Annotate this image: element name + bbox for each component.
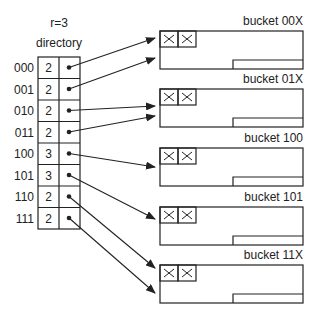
directory-row-101: 101 3 bbox=[14, 169, 71, 183]
row-index: 101 bbox=[14, 169, 34, 183]
bucket-label: bucket 00X bbox=[243, 14, 303, 28]
bucket-11X: bucket 11X bbox=[160, 248, 303, 303]
directory-row-001: 001 2 bbox=[14, 83, 71, 97]
arrow-011-to-01X bbox=[69, 116, 155, 132]
directory-row-100: 100 3 bbox=[14, 147, 71, 161]
directory-title-r: r=3 bbox=[50, 16, 68, 30]
bucket-label: bucket 11X bbox=[244, 248, 303, 262]
row-index: 111 bbox=[16, 212, 35, 226]
arrow-101-to-101 bbox=[69, 175, 155, 219]
arrow-010-to-01X bbox=[69, 106, 155, 111]
local-depth: 2 bbox=[45, 190, 52, 204]
local-depth: 2 bbox=[45, 126, 52, 140]
row-index: 100 bbox=[14, 147, 34, 161]
bucket-100: bucket 100 bbox=[160, 131, 303, 186]
bucket-01X: bucket 01X bbox=[160, 72, 303, 127]
row-index: 110 bbox=[15, 190, 34, 204]
bucket-label: bucket 101 bbox=[244, 190, 303, 204]
row-index: 001 bbox=[14, 83, 34, 97]
directory-row-111: 111 2 bbox=[16, 212, 72, 226]
directory-row-000: 000 2 bbox=[14, 61, 71, 75]
local-depth: 2 bbox=[45, 83, 52, 97]
local-depth: 2 bbox=[45, 212, 52, 226]
row-index: 011 bbox=[15, 126, 34, 140]
local-depth: 3 bbox=[45, 147, 52, 161]
extendible-hashing-diagram: r=3 directory 000 2 001 2 010 2 011 2 10… bbox=[0, 0, 319, 317]
bucket-00X: bucket 00X bbox=[160, 14, 303, 69]
arrow-110-to-11X bbox=[69, 197, 155, 269]
local-depth: 3 bbox=[45, 169, 52, 183]
row-index: 010 bbox=[14, 104, 34, 118]
pointer-arrows bbox=[69, 38, 155, 293]
bucket-label: bucket 01X bbox=[243, 72, 303, 86]
arrow-100-to-100 bbox=[69, 154, 155, 168]
directory-title: directory bbox=[36, 36, 82, 50]
bucket-101: bucket 101 bbox=[160, 190, 303, 245]
directory-row-110: 110 2 bbox=[15, 190, 71, 204]
bucket-label: bucket 100 bbox=[244, 131, 303, 145]
local-depth: 2 bbox=[45, 104, 52, 118]
arrow-111-to-11X bbox=[69, 218, 155, 293]
directory-row-010: 010 2 bbox=[14, 104, 71, 118]
directory-row-011: 011 2 bbox=[15, 126, 71, 140]
row-index: 000 bbox=[14, 61, 34, 75]
local-depth: 2 bbox=[45, 61, 52, 75]
